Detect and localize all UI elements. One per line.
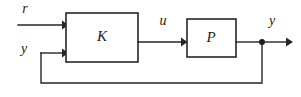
block-diagram: K P r y u y	[0, 0, 301, 97]
wire-feedback-to-controller	[41, 49, 69, 58]
wire-reference-to-controller	[18, 21, 69, 30]
wire-output	[262, 38, 293, 47]
signal-label-reference: r	[22, 1, 28, 16]
signal-label-measured-feedback: y	[19, 41, 28, 56]
wire-controller-to-plant	[138, 38, 188, 47]
arrowhead-icon	[286, 38, 293, 47]
signal-label-control-input: u	[160, 13, 167, 28]
signal-label-output: y	[267, 13, 276, 28]
controller-block-label: K	[96, 28, 108, 44]
block-diagram-canvas: K P r y u y	[0, 0, 301, 97]
plant-block-label: P	[205, 29, 215, 45]
